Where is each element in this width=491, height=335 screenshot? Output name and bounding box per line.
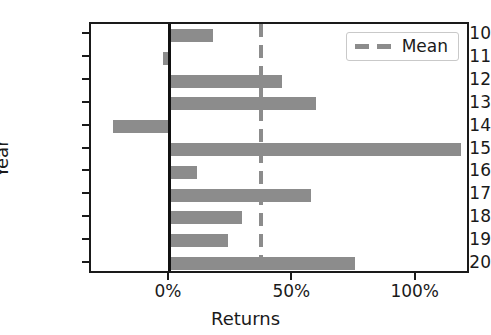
bar-2015 [170,143,461,156]
plot-area: Mean [89,22,469,273]
x-tick-label-100%: 100% [390,283,439,300]
bar-2016 [170,166,197,179]
mean-line [259,24,263,271]
y-tick-mark-2012 [82,78,89,80]
returns-by-year-bar-chart: Year 20102011201220132014201520162017201… [0,0,491,335]
bar-2017 [170,189,311,202]
y-tick-mark-2010 [82,32,89,34]
x-tick-label-0%: 0% [154,283,181,300]
bar-2018 [170,211,242,224]
bar-2010 [170,29,213,42]
zero-reference-line [168,24,171,271]
bar-2012 [170,75,282,88]
bar-2013 [170,97,316,110]
legend-mean-label: Mean [402,38,448,55]
bar-2014 [113,120,170,133]
y-tick-mark-2011 [82,55,89,57]
x-tick-mark-0% [167,273,169,280]
bar-2019 [170,234,228,247]
y-tick-mark-2019 [82,238,89,240]
y-tick-mark-2016 [82,169,89,171]
y-axis-label: Year [0,139,12,177]
y-tick-mark-2013 [82,101,89,103]
y-tick-mark-2014 [82,124,89,126]
y-tick-mark-2017 [82,192,89,194]
y-tick-mark-2020 [82,261,89,263]
x-tick-label-50%: 50% [272,283,310,300]
y-tick-mark-2015 [82,147,89,149]
legend-mean-dashed-swatch [355,44,393,49]
y-tick-mark-2018 [82,215,89,217]
x-axis-label: Returns [0,308,491,329]
x-tick-mark-50% [290,273,292,280]
x-tick-mark-100% [414,273,416,280]
legend: Mean [346,32,459,61]
